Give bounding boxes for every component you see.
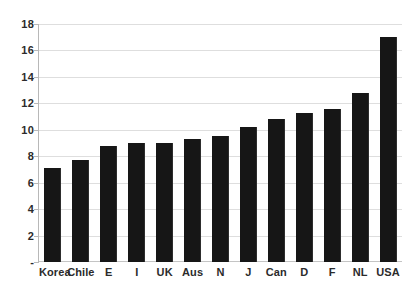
bar[interactable] [212,136,229,262]
x-axis-tick-label: J [234,266,262,278]
bar[interactable] [240,127,257,262]
bar[interactable] [128,143,145,262]
bar[interactable] [156,143,173,262]
y-axis-tick-label: 2 [0,231,34,241]
bar[interactable] [352,93,369,262]
x-axis-tick-label: Chile [67,266,95,278]
y-axis-tick-mark [34,156,39,157]
bar[interactable] [324,109,341,262]
y-axis-tick-label: - [0,257,34,267]
x-axis-tick-label: NL [346,266,374,278]
y-axis-tick-mark [34,209,39,210]
bar[interactable] [44,168,61,262]
y-axis-tick-mark [34,103,39,104]
y-axis-tick-mark [34,50,39,51]
y-axis: 18161412108642- [0,0,34,296]
x-axis-tick-label: D [290,266,318,278]
x-axis-tick-label: E [95,266,123,278]
x-axis: KoreaChileEIUKAusNJCanDFNLUSA [39,266,402,288]
y-axis-tick-mark [34,130,39,131]
y-axis-tick-label: 4 [0,204,34,214]
y-axis-tick-label: 18 [0,19,34,29]
y-axis-tick-mark [34,24,39,25]
x-axis-tick-label: Can [262,266,290,278]
y-axis-tick-label: 16 [0,45,34,55]
x-axis-tick-label: F [318,266,346,278]
bars-layer [39,24,402,262]
bar[interactable] [296,113,313,262]
bar[interactable] [72,160,89,262]
y-axis-tick-mark [34,236,39,237]
y-axis-tick-label: 8 [0,151,34,161]
x-axis-tick-label: USA [374,266,402,278]
bar-chart: 18161412108642- KoreaChileEIUKAusNJCanDF… [0,0,411,296]
x-axis-tick-label: Aus [179,266,207,278]
y-axis-tick-mark [34,77,39,78]
x-axis-tick-label: N [207,266,235,278]
bar[interactable] [184,139,201,262]
bar[interactable] [380,37,397,262]
y-axis-tick-label: 14 [0,72,34,82]
y-axis-tick-mark [34,183,39,184]
x-axis-tick-label: Korea [39,266,67,278]
y-axis-tick-label: 12 [0,98,34,108]
x-axis-tick-label: I [123,266,151,278]
x-axis-tick-label: UK [151,266,179,278]
bar[interactable] [100,146,117,262]
y-axis-tick-label: 6 [0,178,34,188]
y-axis-tick-label: 10 [0,125,34,135]
y-axis-tick-mark [34,262,39,263]
bar[interactable] [268,119,285,262]
